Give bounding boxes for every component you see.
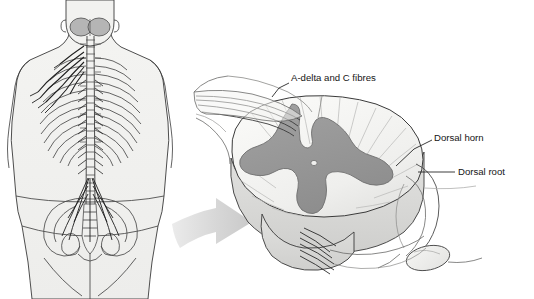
central-canal bbox=[311, 160, 317, 165]
label-text-dorsal-horn: Dorsal horn bbox=[434, 132, 484, 143]
figure-canvas: A-delta and C fibres Dorsal horn Dorsal … bbox=[0, 0, 534, 299]
brain-hemisphere-right bbox=[88, 18, 110, 36]
brain bbox=[70, 18, 110, 36]
label-text-a-delta-and-c-fibres: A-delta and C fibres bbox=[291, 72, 376, 83]
illustration-figure: A-delta and C fibres Dorsal horn Dorsal … bbox=[0, 0, 534, 299]
label-text-dorsal-root: Dorsal root bbox=[458, 166, 505, 177]
